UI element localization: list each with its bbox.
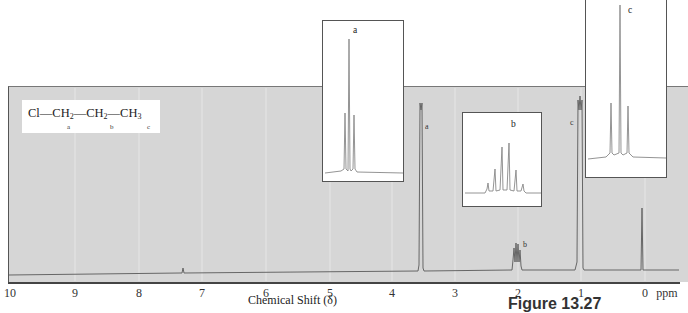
tick-8: 8 [136, 286, 142, 301]
peak-label-b: b [523, 240, 527, 249]
peak-label-a: a [425, 122, 429, 131]
tick-7: 7 [199, 286, 205, 301]
label-c: c [147, 123, 150, 131]
molecule-structure: Cl—CH2—CH2—CH3 a b c [22, 100, 160, 133]
x-axis [8, 282, 680, 284]
inset-c-trace [586, 0, 668, 179]
inset-b-trace [463, 113, 543, 208]
tick-10: 10 [4, 286, 16, 301]
bond: — [108, 106, 121, 120]
figure-caption: Figure 13.27 [508, 295, 601, 313]
inset-c-label: c [628, 5, 632, 15]
inset-b: b [462, 112, 542, 207]
label-b: b [110, 123, 114, 131]
ch2-a: CH [52, 106, 69, 120]
inset-b-label: b [511, 119, 516, 129]
tick-0: 0 [642, 286, 648, 301]
ch2-b: CH [86, 106, 103, 120]
label-a: a [67, 123, 70, 131]
inset-a-trace [323, 21, 405, 183]
inset-c: c [585, 0, 667, 178]
inset-a-label: a [353, 25, 357, 35]
tick-9: 9 [72, 286, 78, 301]
inset-a: a [322, 20, 404, 182]
tick-4: 4 [389, 286, 395, 301]
subscript: 3 [137, 112, 141, 121]
peak-label-c: c [570, 118, 574, 127]
x-axis-label: Chemical Shift (δ) [248, 293, 337, 308]
bond: — [74, 106, 87, 120]
chlorine-atom: Cl [28, 106, 40, 120]
tick-3: 3 [452, 286, 458, 301]
ch3-c: CH [120, 106, 137, 120]
bond: — [40, 106, 53, 120]
axis-unit: ppm [656, 286, 677, 301]
structural-formula: Cl—CH2—CH2—CH3 [28, 106, 141, 121]
